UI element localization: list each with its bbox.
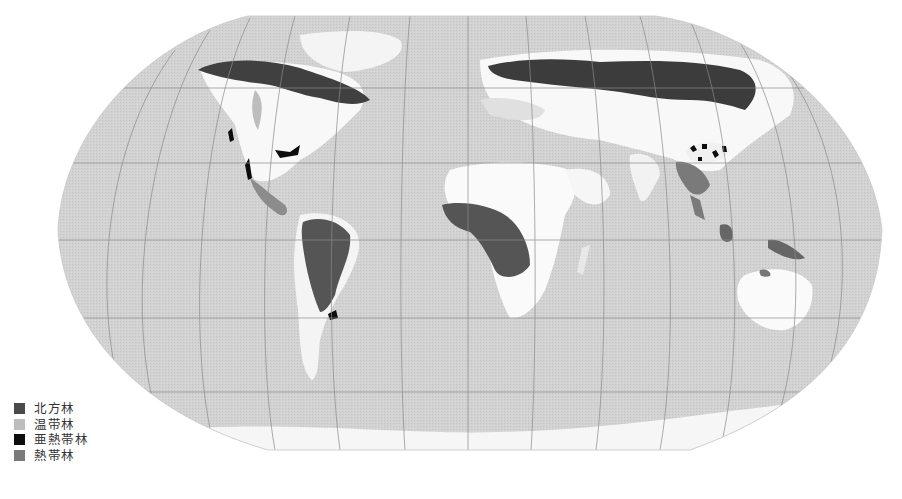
legend-swatch-temperate (14, 419, 25, 430)
legend-item-tropical: 熱帯林 (14, 448, 88, 464)
legend-item-temperate: 温带林 (14, 417, 88, 433)
legend-label: 北方林 (34, 401, 75, 416)
legend-swatch-subtropical (14, 434, 25, 445)
legend-item-subtropical: 亜熱帯林 (14, 432, 88, 448)
legend-swatch-boreal (14, 403, 25, 414)
legend: 北方林 温带林 亜熱帯林 熱帯林 (14, 401, 88, 463)
legend-swatch-tropical (14, 450, 25, 461)
legend-label: 温带林 (34, 417, 75, 432)
legend-label: 熱帯林 (34, 448, 75, 463)
legend-item-boreal: 北方林 (14, 401, 88, 417)
legend-label: 亜熱帯林 (34, 432, 88, 447)
world-map (0, 0, 902, 499)
ocean (0, 0, 902, 499)
